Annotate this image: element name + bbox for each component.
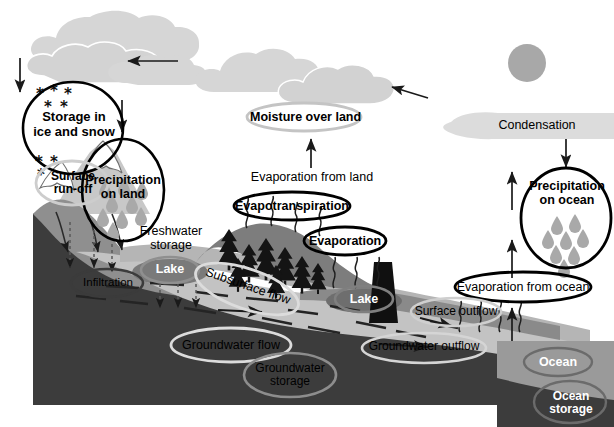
label-evapotranspiration: Evapotranspiration — [235, 199, 349, 213]
label-ocean-storage: Ocean storage — [542, 390, 600, 417]
label-lake-left: Lake — [146, 262, 194, 276]
label-freshwater-storage: Freshwater storage — [129, 224, 213, 252]
label-lake-right: Lake — [340, 292, 388, 306]
label-evaporation-from-ocean: Evaporation from ocean — [456, 280, 590, 294]
label-groundwater-outflow: Groundwater outflow — [366, 340, 482, 353]
cloud-icon — [195, 49, 394, 104]
label-surface-run-off: Surface run-off — [42, 170, 104, 197]
label-condensation: Condensation — [490, 118, 584, 132]
label-moisture-over-land: Moisture over land — [250, 110, 360, 124]
label-ocean: Ocean — [532, 355, 584, 369]
cloud-icon — [27, 11, 207, 85]
arrow-left-icon — [392, 87, 428, 98]
label-precipitation-on-ocean: Precipitation on ocean — [526, 179, 608, 207]
label-evaporation: Evaporation — [309, 234, 381, 248]
label-groundwater-flow: Groundwater flow — [172, 338, 290, 352]
label-surface-outflow: Surface outflow — [412, 305, 500, 318]
label-evaporation-from-land: Evaporation from land — [231, 170, 393, 184]
sun-icon — [508, 44, 546, 82]
label-groundwater-storage: Groundwater storage — [244, 362, 336, 389]
label-infiltration: Infiltration — [76, 276, 140, 289]
water-cycle-diagram: *** ** *** — [0, 0, 614, 427]
label-storage-in-ice-and-snow: Storage in ice and snow — [26, 110, 122, 139]
